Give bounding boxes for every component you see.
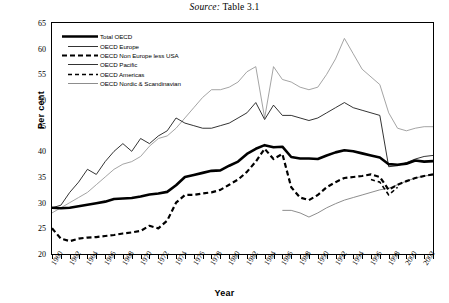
- legend-item: OECD Europe: [62, 41, 181, 50]
- series-line: [282, 175, 433, 217]
- source-note: Source: Table 3.1: [0, 2, 449, 12]
- legend-label: OECD Europe: [98, 43, 139, 50]
- legend-swatch: [62, 51, 98, 60]
- legend-swatch: [62, 79, 98, 88]
- legend-item: Total OECD: [62, 32, 181, 41]
- chart-legend: Total OECDOECD EuropeOECD Non Europe les…: [62, 32, 181, 88]
- legend-swatch: [62, 60, 98, 69]
- y-axis-tick-label: 65: [24, 19, 46, 28]
- source-text: Table 3.1: [222, 2, 259, 12]
- legend-label: OECD Pacific: [98, 61, 137, 68]
- y-axis-tick-label: 25: [24, 224, 46, 233]
- series-line: [52, 103, 433, 208]
- legend-label: OECD Nordic & Scandinavian: [98, 80, 181, 87]
- x-axis-label: Year: [0, 288, 449, 298]
- legend-label: OECD Non Europe less USA: [98, 52, 179, 59]
- legend-swatch: [62, 42, 98, 51]
- series-line: [52, 149, 433, 241]
- y-axis-tick-label: 35: [24, 173, 46, 182]
- legend-item: OECD Nordic & Scandinavian: [62, 79, 181, 88]
- legend-item: OECD Pacific: [62, 60, 181, 69]
- legend-item: OECD Americas: [62, 70, 181, 79]
- source-prefix: Source:: [189, 2, 220, 12]
- legend-item: OECD Non Europe less USA: [62, 51, 181, 60]
- legend-label: Total OECD: [98, 33, 132, 40]
- y-axis-tick-label: 30: [24, 198, 46, 207]
- y-axis-tick-label: 20: [24, 250, 46, 259]
- legend-label: OECD Americas: [98, 71, 144, 78]
- legend-swatch: [62, 70, 98, 79]
- chart-figure: Source: Table 3.1 20253035404550556065 P…: [0, 0, 449, 303]
- y-axis-label: Per cent: [36, 65, 46, 155]
- y-axis-tick-label: 60: [24, 44, 46, 53]
- legend-swatch: [62, 32, 98, 41]
